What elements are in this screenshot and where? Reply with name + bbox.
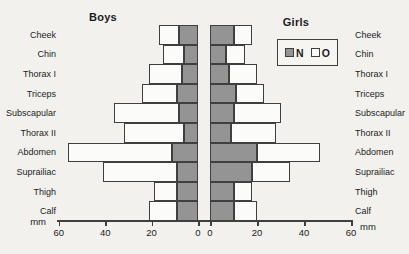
category-label-left-chin: Chin [0, 48, 56, 60]
bar-girls-triceps-o [236, 84, 264, 104]
bar-girls-cheek-o [234, 25, 253, 45]
axis-tick-girls-40 [304, 221, 306, 226]
bar-boys-thorax-ii-o [124, 123, 184, 143]
skinfold-pyramid-chart: Boys Girls N O mm mm 60402000204060Cheek… [0, 0, 409, 254]
bar-girls-chin-o [226, 45, 245, 65]
bar-girls-suprailiac-n [210, 162, 252, 182]
bar-girls-calf-o [234, 201, 258, 221]
bar-girls-thorax-i-n [210, 64, 229, 84]
bar-boys-triceps-n [177, 84, 198, 104]
bar-girls-calf-n [210, 201, 234, 221]
category-label-right-suprailiac: Suprailiac [355, 166, 409, 178]
axis-tick-label-girls-0: 0 [199, 227, 221, 238]
o-series-swatch-icon [311, 48, 320, 57]
axis-tick-label-boys-40: 40 [94, 227, 116, 238]
bar-boys-thigh-o [154, 182, 177, 202]
bar-boys-chin-n [184, 45, 198, 65]
category-label-right-thigh: Thigh [355, 186, 409, 198]
right-axis-unit-label: mm [360, 221, 376, 232]
bar-girls-suprailiac-o [252, 162, 290, 182]
axis-tick-label-boys-20: 20 [141, 227, 163, 238]
category-label-left-subscapular: Subscapular [0, 107, 56, 119]
category-label-right-subscapular: Subscapular [355, 107, 409, 119]
axis-tick-girls-0 [210, 221, 212, 226]
bar-girls-triceps-n [210, 84, 236, 104]
bar-girls-thorax-ii-n [210, 123, 231, 143]
legend-item-o: O [311, 47, 330, 59]
axis-tick-boys-40 [105, 221, 107, 226]
category-label-left-thorax-ii: Thorax II [0, 127, 56, 139]
bar-girls-thigh-n [210, 182, 234, 202]
category-label-right-thorax-ii: Thorax II [355, 127, 409, 139]
axis-tick-boys-0 [198, 221, 200, 226]
category-label-left-thorax-i: Thorax I [0, 68, 56, 80]
bar-boys-subscapular-n [179, 103, 198, 123]
girls-panel-title: Girls [256, 16, 336, 28]
bar-girls-thigh-o [234, 182, 253, 202]
bar-girls-subscapular-n [210, 103, 234, 123]
bar-girls-cheek-n [210, 25, 234, 45]
category-label-left-calf: Calf [0, 205, 56, 217]
bar-girls-chin-n [210, 45, 226, 65]
bar-boys-chin-o [163, 45, 184, 65]
axis-tick-label-girls-60: 60 [340, 227, 362, 238]
axis-tick-label-girls-40: 40 [293, 227, 315, 238]
category-label-left-thigh: Thigh [0, 186, 56, 198]
bar-boys-calf-o [149, 201, 177, 221]
axis-tick-girls-20 [257, 221, 259, 226]
category-label-right-thorax-i: Thorax I [355, 68, 409, 80]
bar-boys-cheek-n [179, 25, 198, 45]
bar-girls-thorax-i-o [229, 64, 257, 84]
category-label-right-abdomen: Abdomen [355, 146, 409, 158]
legend-label-o: O [322, 47, 330, 59]
bar-boys-abdomen-o [68, 143, 172, 163]
n-series-swatch-icon [285, 48, 294, 57]
axis-tick-girls-60 [351, 221, 353, 226]
x-axis-line [57, 220, 353, 222]
category-label-left-suprailiac: Suprailiac [0, 166, 56, 178]
bar-boys-thorax-ii-n [184, 123, 198, 143]
category-label-left-cheek: Cheek [0, 29, 56, 41]
category-label-left-triceps: Triceps [0, 88, 56, 100]
bar-boys-calf-n [177, 201, 198, 221]
legend: N O [277, 39, 338, 66]
category-label-left-abdomen: Abdomen [0, 146, 56, 158]
category-label-right-calf: Calf [355, 205, 409, 217]
bar-boys-suprailiac-n [177, 162, 198, 182]
bar-boys-thigh-n [177, 182, 198, 202]
bar-girls-abdomen-o [257, 143, 320, 163]
legend-item-n: N [285, 47, 304, 59]
bar-girls-thorax-ii-o [231, 123, 276, 143]
category-label-right-triceps: Triceps [355, 88, 409, 100]
left-axis-unit-label: mm [14, 216, 46, 227]
axis-tick-boys-20 [152, 221, 154, 226]
bar-boys-thorax-i-o [149, 64, 181, 84]
bar-boys-abdomen-n [172, 143, 198, 163]
bar-boys-suprailiac-o [103, 162, 177, 182]
axis-tick-label-girls-20: 20 [246, 227, 268, 238]
bar-boys-cheek-o [159, 25, 180, 45]
bar-boys-thorax-i-n [182, 64, 198, 84]
category-label-right-cheek: Cheek [355, 29, 409, 41]
axis-tick-label-boys-60: 60 [48, 227, 70, 238]
axis-tick-boys-60 [59, 221, 61, 226]
legend-label-n: N [296, 47, 304, 59]
bar-boys-triceps-o [142, 84, 177, 104]
bar-girls-abdomen-n [210, 143, 257, 163]
bar-boys-subscapular-o [114, 103, 179, 123]
boys-panel-title: Boys [63, 11, 143, 23]
bar-girls-subscapular-o [234, 103, 281, 123]
category-label-right-chin: Chin [355, 48, 409, 60]
